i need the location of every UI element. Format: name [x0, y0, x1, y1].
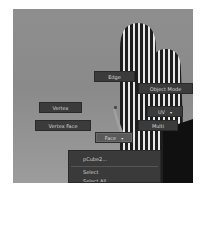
vertex-face-button[interactable]: Vertex Face	[35, 120, 91, 131]
menu-item-pcube2[interactable]: pCube2...	[69, 154, 160, 164]
uv-button[interactable]: UV▾	[147, 106, 183, 117]
vertex-face-label: Vertex Face	[49, 123, 78, 129]
edge-label: Edge	[108, 74, 121, 80]
menu-divider	[71, 166, 158, 167]
edge-button[interactable]: Edge	[94, 71, 135, 82]
menu-item-select-all[interactable]: Select All	[69, 177, 160, 183]
vertex-label: Vertex	[52, 105, 68, 111]
vertex-button[interactable]: Vertex	[39, 102, 82, 113]
dropdown-arrow-icon[interactable]: ▾	[121, 136, 123, 141]
multi-button[interactable]: Multi	[138, 120, 178, 131]
marking-menu-center	[114, 106, 117, 109]
face-label: Face	[105, 135, 116, 141]
multi-label: Multi	[152, 123, 164, 129]
menu-item-select[interactable]: Select	[69, 168, 160, 177]
object-mode-button[interactable]: Object Mode	[138, 83, 193, 94]
context-submenu: pCube2... Select Select All	[68, 150, 161, 183]
object-mode-label: Object Mode	[150, 86, 182, 92]
uv-label: UV	[158, 109, 165, 115]
dropdown-arrow-icon[interactable]: ▾	[170, 110, 172, 115]
face-button[interactable]: Face▾	[95, 132, 133, 143]
